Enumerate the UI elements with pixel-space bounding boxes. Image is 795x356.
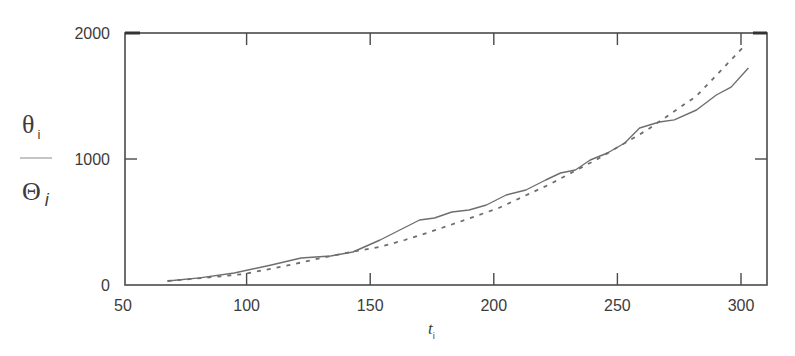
- line-chart: 50100150200250300 010002000 ti θi Θi: [0, 0, 795, 356]
- x-axis-label-sub: i: [433, 331, 435, 341]
- y-axis-tick-labels: 010002000: [74, 25, 110, 294]
- x-tick-label: 250: [604, 297, 631, 314]
- y-label-bottom-var: Θ: [22, 177, 41, 206]
- y-axis-label-top: θi: [22, 110, 40, 142]
- data-series: [168, 47, 749, 281]
- y-axis-ticks: [125, 33, 767, 159]
- x-axis-label: ti: [428, 319, 435, 341]
- y-axis-label-bottom: Θi: [22, 177, 50, 210]
- x-tick-label: 50: [114, 297, 132, 314]
- y-label-top-var: θ: [22, 110, 34, 139]
- plot-frame: [125, 33, 767, 285]
- y-label-bottom-sub: i: [45, 190, 50, 210]
- y-tick-label: 2000: [74, 25, 110, 42]
- y-tick-label: 1000: [74, 151, 110, 168]
- x-axis-tick-labels: 50100150200250300: [114, 297, 754, 314]
- series-theta-solid-line: [168, 68, 749, 281]
- series-capital-theta-dotted-line: [168, 47, 744, 281]
- y-tick-label: 0: [101, 277, 110, 294]
- x-tick-label: 200: [480, 297, 507, 314]
- x-tick-label: 100: [233, 297, 260, 314]
- x-tick-label: 150: [357, 297, 384, 314]
- x-axis-ticks: [247, 33, 741, 285]
- x-tick-label: 300: [728, 297, 755, 314]
- y-label-top-sub: i: [37, 127, 40, 142]
